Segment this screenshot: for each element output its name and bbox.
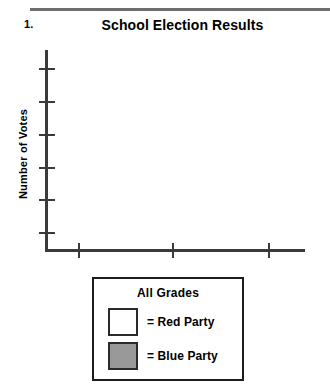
x-axis-line <box>45 249 305 252</box>
legend-swatch-red-party <box>108 308 138 336</box>
y-axis-label: Number of Votes <box>17 89 29 219</box>
legend-title: All Grades <box>94 286 242 300</box>
x-axis-tick <box>172 243 174 258</box>
legend-item-red-party: = Red Party <box>108 308 214 336</box>
y-axis-tick <box>39 232 55 234</box>
y-axis-tick <box>39 167 55 169</box>
x-axis-tick <box>78 243 80 258</box>
chart-plot-area: Number of Votes <box>0 0 330 270</box>
legend-swatch-blue-party <box>108 342 138 370</box>
y-axis-tick <box>39 134 55 136</box>
legend-item-blue-party: = Blue Party <box>108 342 218 370</box>
legend-label-red-party: = Red Party <box>147 315 214 329</box>
y-axis-tick <box>39 199 55 201</box>
y-axis-tick <box>39 68 55 70</box>
legend-label-blue-party: = Blue Party <box>147 349 218 363</box>
x-axis-tick <box>268 243 270 258</box>
y-axis-tick <box>39 101 55 103</box>
chart-legend: All Grades = Red Party = Blue Party <box>92 277 244 381</box>
y-axis-line <box>45 50 48 252</box>
